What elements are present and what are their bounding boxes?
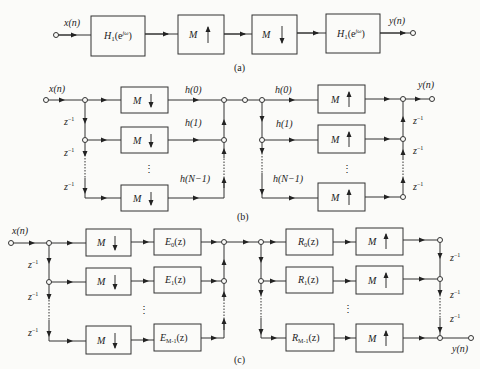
output-node: [411, 31, 416, 36]
input-node: [54, 33, 59, 38]
multirate-filter-diagram: x(n) H1(ejω) M M H1(ejω) y(n) (a) x(n): [0, 0, 480, 369]
delay-label: z−1: [27, 291, 38, 302]
downsampler-block: [252, 15, 297, 54]
block-label: M: [96, 335, 106, 346]
input-label: x(n): [48, 83, 66, 95]
upsampler-block: [318, 183, 365, 211]
junction-node: [243, 98, 248, 103]
upsampler-block: [318, 85, 365, 113]
ellipsis: ⋮: [342, 163, 352, 174]
branch-node: [260, 98, 265, 103]
branch-node: [83, 138, 88, 143]
output-label: y(n): [417, 79, 435, 91]
block-label: E1(z): [164, 274, 185, 286]
branch-node: [259, 279, 264, 284]
output-node: [430, 97, 435, 102]
delay-label: z−1: [412, 145, 423, 156]
block-label: M: [96, 237, 106, 248]
sum-node: [222, 138, 227, 143]
block-label: M: [330, 192, 340, 203]
downsampler-block: [121, 87, 168, 113]
coeff-label: h(1): [276, 118, 293, 130]
delay-label: z−1: [63, 147, 74, 158]
ellipsis: ⋮: [144, 163, 154, 174]
sum-node: [438, 238, 443, 243]
output-label: y(n): [388, 15, 406, 27]
input-label: x(n): [63, 17, 81, 29]
branch-node: [47, 241, 52, 246]
branch-node: [47, 280, 52, 285]
input-label: x(n): [11, 225, 29, 237]
delay-label: z−1: [449, 289, 460, 300]
sum-node: [438, 336, 443, 341]
upsampler-block: [318, 125, 365, 153]
diagram-a: x(n) H1(ejω) M M H1(ejω) y(n) (a): [54, 14, 416, 74]
upsampler-block: [178, 15, 224, 54]
input-node: [44, 98, 49, 103]
diagram-c: x(n) z−1 z−1 z−1 M M M: [9, 225, 474, 366]
delay-label: z−1: [63, 116, 74, 127]
branch-node: [83, 98, 88, 103]
block-label: E0(z): [164, 236, 185, 248]
block-label: R1(z): [297, 274, 318, 286]
sum-node: [222, 279, 227, 284]
delay-label: z−1: [27, 259, 38, 270]
delay-label: z−1: [412, 181, 423, 192]
block-label: M: [367, 236, 377, 247]
sum-node: [401, 97, 406, 102]
caption-c: (c): [234, 354, 245, 366]
delay-label: z−1: [63, 181, 74, 192]
output-label: y(n): [451, 343, 469, 355]
delay-label: z−1: [27, 327, 38, 338]
downsampler-block: [86, 229, 131, 256]
block-label: M: [132, 193, 142, 204]
coeff-label: h(1): [185, 117, 202, 129]
diagram-b: x(n) z−1 z−1 z−1 M M ⋮ M h(: [44, 79, 435, 223]
block-label: M: [367, 275, 377, 286]
output-node: [469, 336, 474, 341]
block-label: M: [96, 276, 106, 287]
caption-b: (b): [237, 211, 249, 223]
sum-node: [401, 137, 406, 142]
coeff-label: h(N−1): [273, 173, 304, 185]
coeff-label: h(N−1): [180, 173, 211, 185]
upsampler-block: [356, 266, 403, 294]
block-label: M: [261, 29, 271, 40]
downsampler-block: [121, 185, 168, 211]
caption-a: (a): [234, 62, 245, 74]
downsampler-block: [121, 127, 168, 153]
downsampler-block: [86, 268, 131, 295]
delay-label: z−1: [412, 115, 423, 126]
delay-label: z−1: [449, 252, 460, 263]
block-label: M: [330, 94, 340, 105]
branch-node: [259, 240, 264, 245]
block-label: M: [188, 29, 198, 40]
upsampler-block: [356, 324, 403, 352]
downsampler-block: [86, 326, 131, 354]
branch-node: [260, 138, 265, 143]
block-label: R0(z): [297, 236, 318, 248]
ellipsis: ⋮: [139, 304, 149, 315]
sum-node: [438, 277, 443, 282]
delay-label: z−1: [449, 313, 460, 324]
ellipsis: ⋮: [343, 303, 353, 314]
input-node: [9, 241, 14, 246]
sum-node: [222, 98, 227, 103]
block-label: M: [132, 135, 142, 146]
coeff-label: h(0): [275, 84, 292, 96]
block-label: M: [367, 333, 377, 344]
sum-node: [222, 240, 227, 245]
block-label: M: [330, 134, 340, 145]
block-label: M: [132, 95, 142, 106]
sum-node: [401, 195, 406, 200]
coeff-label: h(0): [185, 84, 202, 96]
upsampler-block: [356, 228, 403, 255]
